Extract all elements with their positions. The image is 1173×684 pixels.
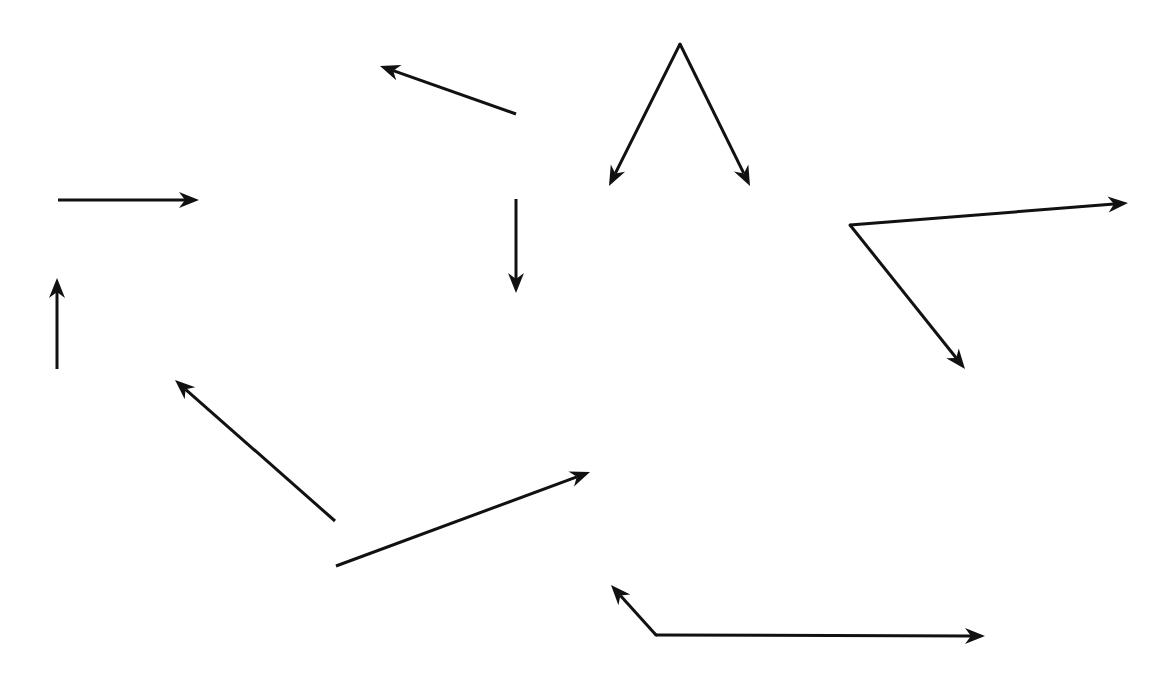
arrow-shaft <box>680 44 744 173</box>
angle-bottom-ray-1 <box>611 585 656 635</box>
arrow-diagonal-up-left <box>175 380 335 521</box>
angle-bottom <box>611 585 985 644</box>
arrow-shaft <box>850 225 956 358</box>
angle-vertex <box>679 43 682 46</box>
arrow-vertical-up <box>49 278 65 369</box>
arrow-up-left <box>380 65 516 114</box>
angle-top-peak-ray-1 <box>609 44 680 186</box>
arrow-shaft <box>393 71 516 114</box>
angle-top-peak-ray-2 <box>680 44 750 186</box>
arrowhead-icon <box>946 348 965 369</box>
arrow-shaft <box>615 44 680 173</box>
angle-right-ray-2 <box>850 225 965 369</box>
arrow-shaft <box>336 477 577 566</box>
angle-bottom-ray-2 <box>656 628 985 644</box>
arrow-shaft <box>656 635 971 636</box>
arrow-vertical-down <box>508 199 524 293</box>
angle-vertex <box>849 224 852 227</box>
arrows-diagram <box>0 0 1173 684</box>
diagram-canvas <box>0 0 1173 684</box>
angle-right-ray-1 <box>850 197 1128 225</box>
arrow-layer <box>49 43 1128 644</box>
arrow-horizontal-right <box>58 192 199 208</box>
angle-right <box>849 197 1129 369</box>
angle-top-peak <box>609 43 750 187</box>
arrow-shaft <box>850 204 1114 225</box>
angle-vertex <box>655 634 658 637</box>
arrow-shaft <box>186 389 335 521</box>
arrow-diagonal-up-right <box>336 471 590 566</box>
arrow-shaft <box>620 595 656 635</box>
